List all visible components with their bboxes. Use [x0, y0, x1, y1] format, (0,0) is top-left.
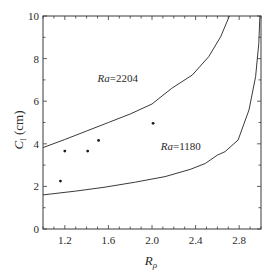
data-point	[97, 139, 100, 142]
x-tick-label: 1.2	[58, 234, 72, 246]
x-tick-label: 2.8	[232, 234, 246, 246]
x-tick-label: 1.6	[102, 234, 116, 246]
y-tick-label: 2	[34, 180, 40, 192]
x-axis-label: Rρ	[144, 253, 158, 270]
curve-ra-1180	[43, 16, 260, 195]
x-axis-ticks: 1.21.62.02.42.8	[43, 16, 261, 246]
curve-label: Ra=1180	[160, 140, 202, 152]
x-tick-label: 2.4	[189, 234, 203, 246]
y-tick-label: 4	[34, 138, 40, 150]
y-tick-label: 10	[28, 10, 40, 22]
data-point	[63, 150, 66, 153]
y-tick-label: 6	[34, 95, 40, 107]
chart: 1.21.62.02.42.8 0246810 Ra=2204Ra=1180 R…	[0, 0, 275, 274]
y-tick-label: 8	[34, 53, 40, 65]
y-axis-label: Cl (cm)	[11, 111, 28, 150]
data-point	[86, 150, 89, 153]
y-tick-label: 0	[34, 223, 40, 235]
x-tick-label: 2.0	[145, 234, 159, 246]
curve-label: Ra=2204	[97, 72, 139, 84]
annotations: Ra=2204Ra=1180	[97, 72, 202, 152]
data-point	[59, 180, 62, 183]
y-axis-ticks: 0246810	[28, 10, 261, 235]
data-point	[152, 122, 155, 125]
series-layer	[43, 16, 260, 195]
